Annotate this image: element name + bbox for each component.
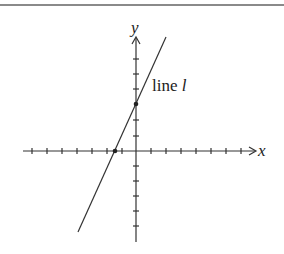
- y-axis: [132, 37, 140, 242]
- top-divider-rule: [0, 4, 284, 6]
- graph-canvas: y x line l: [0, 0, 284, 254]
- x-intercept-point: [113, 149, 118, 154]
- line-label-name: l: [182, 76, 187, 95]
- y-intercept-point: [134, 102, 139, 107]
- line-l: [78, 37, 166, 232]
- line-label-prefix: line: [152, 76, 182, 95]
- line-l-label: line l: [152, 76, 187, 95]
- x-axis: [23, 147, 256, 155]
- coordinate-plane-figure: y x line l: [0, 0, 284, 254]
- x-axis-label: x: [257, 141, 266, 160]
- y-axis-label: y: [129, 18, 139, 37]
